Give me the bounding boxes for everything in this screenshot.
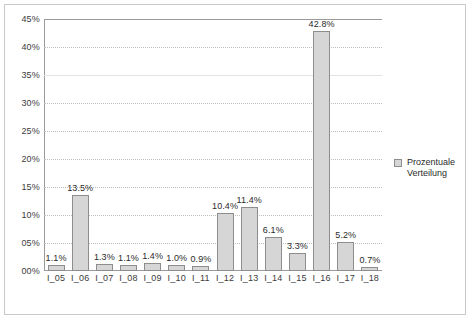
bar-wrapper: 1.4%: [141, 263, 165, 271]
bar-wrapper: 11.4%: [237, 207, 261, 271]
bar-value-label: 6.1%: [263, 225, 284, 235]
x-axis-tick-label: I_09: [141, 273, 165, 283]
y-axis-tick-label: 30%: [21, 98, 40, 108]
bar-wrapper: 42.8%: [310, 31, 334, 271]
y-axis-tick-label: 25%: [21, 126, 40, 136]
bar-value-label: 1.4%: [142, 251, 163, 261]
x-axis-tick-label: I_11: [189, 273, 213, 283]
y-axis-tick-label: 20%: [21, 154, 40, 164]
x-axis-tick-label: I_16: [310, 273, 334, 283]
bar-wrapper: 0.7%: [358, 267, 382, 271]
y-axis-tick-label: 40%: [21, 42, 40, 52]
bar[interactable]: [265, 237, 282, 271]
bar-wrapper: 6.1%: [261, 237, 285, 271]
y-axis-tick-label: 45%: [21, 14, 40, 24]
y-axis-tick-label: 00%: [21, 266, 40, 276]
x-axis-tick-label: I_17: [334, 273, 358, 283]
x-axis-tick-label: I_08: [116, 273, 140, 283]
bar-group: 5.2%: [334, 19, 358, 271]
y-axis-tick-label: 15%: [21, 182, 40, 192]
bar-value-label: 0.7%: [359, 255, 380, 265]
x-axis-ticks: I_05I_06I_07I_08I_09I_10I_11I_12I_13I_14…: [44, 273, 382, 283]
bar-value-label: 42.8%: [309, 19, 335, 29]
bar[interactable]: [120, 265, 137, 271]
bar-group: 1.3%: [92, 19, 116, 271]
y-axis-tick-label: 10%: [21, 210, 40, 220]
bar[interactable]: [48, 265, 65, 271]
bar[interactable]: [96, 264, 113, 271]
y-axis-tick-label: 35%: [21, 70, 40, 80]
legend-item-label: Prozentuale Verteilung: [407, 157, 467, 179]
bar[interactable]: [144, 263, 161, 271]
x-axis-tick-label: I_07: [92, 273, 116, 283]
bar[interactable]: [168, 265, 185, 271]
bar[interactable]: [217, 213, 234, 271]
x-axis-tick-label: I_05: [44, 273, 68, 283]
bar-group: 11.4%: [237, 19, 261, 271]
bar-wrapper: 13.5%: [68, 195, 92, 271]
x-axis-tick-label: I_13: [237, 273, 261, 283]
bar-value-label: 0.9%: [190, 254, 211, 264]
bar-group: 1.1%: [44, 19, 68, 271]
bar-group: 6.1%: [261, 19, 285, 271]
bar-group: 1.1%: [116, 19, 140, 271]
bar-wrapper: 1.1%: [44, 265, 68, 271]
bar-value-label: 1.3%: [94, 252, 115, 262]
bar-wrapper: 5.2%: [334, 242, 358, 271]
legend-swatch-icon: [394, 159, 402, 167]
bar-value-label: 1.1%: [46, 253, 67, 263]
bar-group: 13.5%: [68, 19, 92, 271]
bar[interactable]: [361, 267, 378, 271]
x-axis-tick-label: I_10: [165, 273, 189, 283]
bar-group: 0.9%: [189, 19, 213, 271]
y-axis-tick-label: 05%: [21, 238, 40, 248]
x-axis-tick-label: I_14: [261, 273, 285, 283]
bar-wrapper: 1.3%: [92, 264, 116, 271]
x-axis-tick-label: I_06: [68, 273, 92, 283]
bar-value-label: 10.4%: [212, 201, 238, 211]
bar-wrapper: 1.1%: [116, 265, 140, 271]
bar-group: 42.8%: [310, 19, 334, 271]
bar-series-prozentuale-verteilung: 1.1%13.5%1.3%1.1%1.4%1.0%0.9%10.4%11.4%6…: [44, 19, 382, 271]
plot-region: 00%05%10%15%20%25%30%35%40%45% 1.1%13.5%…: [44, 19, 382, 271]
bar[interactable]: [72, 195, 89, 271]
bar-group: 1.0%: [165, 19, 189, 271]
bar[interactable]: [192, 266, 209, 271]
legend: Prozentuale Verteilung: [394, 157, 467, 179]
bar-group: 0.7%: [358, 19, 382, 271]
bar-group: 3.3%: [285, 19, 309, 271]
bar-value-label: 5.2%: [335, 230, 356, 240]
bar-wrapper: 1.0%: [165, 265, 189, 271]
bar-wrapper: 0.9%: [189, 266, 213, 271]
bar-value-label: 1.1%: [118, 253, 139, 263]
x-axis-tick-label: I_15: [285, 273, 309, 283]
bar-group: 10.4%: [213, 19, 237, 271]
chart-frame: 00%05%10%15%20%25%30%35%40%45% 1.1%13.5%…: [4, 4, 466, 315]
bar-value-label: 11.4%: [237, 195, 262, 205]
bar-value-label: 3.3%: [287, 241, 308, 251]
bar-wrapper: 3.3%: [285, 253, 309, 271]
bar-wrapper: 10.4%: [213, 213, 237, 271]
x-axis-tick-label: I_12: [213, 273, 237, 283]
bar[interactable]: [337, 242, 354, 271]
bar-value-label: 1.0%: [166, 253, 187, 263]
x-axis-tick-label: I_18: [358, 273, 382, 283]
bar[interactable]: [289, 253, 306, 271]
bar-group: 1.4%: [141, 19, 165, 271]
bar[interactable]: [313, 31, 330, 271]
bar-value-label: 13.5%: [67, 183, 93, 193]
bar[interactable]: [241, 207, 258, 271]
